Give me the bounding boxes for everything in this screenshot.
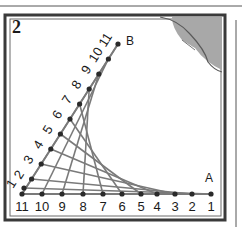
point-a-label: A (205, 171, 213, 185)
nail-points (19, 41, 213, 196)
nail-dot (80, 191, 85, 196)
nail-dot (106, 56, 111, 61)
diagonal-point-label: 10 (85, 45, 105, 65)
nail-dot (67, 116, 72, 121)
bottom-point-label: 10 (35, 199, 49, 214)
nail-dot (96, 71, 101, 76)
diagonal-point-label: 3 (20, 153, 37, 167)
nail-dot (115, 41, 120, 46)
diagonal-point-label: 4 (30, 138, 47, 152)
nail-dot (77, 101, 82, 106)
thread-lines (22, 44, 211, 194)
bottom-point-label: 8 (79, 199, 86, 214)
bottom-point-label: 1 (207, 199, 214, 214)
nail-dot (87, 86, 92, 91)
nail-dot (59, 191, 64, 196)
diagonal-point-label: 5 (39, 123, 56, 137)
diagonal-point-label: 2 (11, 168, 28, 182)
diagonal-point-label: 9 (78, 63, 95, 77)
figure-number: 2 (12, 17, 21, 37)
nail-dot (39, 191, 44, 196)
nail-dot (19, 191, 24, 196)
bottom-point-label: 5 (137, 199, 144, 214)
bottom-point-label: 7 (99, 199, 106, 214)
nail-dot (154, 191, 159, 196)
thread-line (51, 149, 157, 194)
nail-dot (39, 161, 44, 166)
nail-dot (189, 191, 194, 196)
bottom-point-label: 3 (171, 199, 178, 214)
nail-dot (172, 191, 177, 196)
nail-dot (138, 191, 143, 196)
diagonal-point-label: 7 (59, 93, 76, 107)
string-art-diagram: 11109876543211234567891011 2 B A (0, 0, 242, 227)
nail-dot (29, 176, 34, 181)
nail-dot (48, 146, 53, 151)
diagonal-point-label: 6 (49, 108, 66, 122)
bottom-point-label: 2 (188, 199, 195, 214)
diagonal-point-label: 11 (95, 30, 115, 49)
point-b-label: B (126, 34, 134, 48)
bottom-point-label: 9 (58, 199, 65, 214)
bottom-point-label: 6 (118, 199, 125, 214)
nail-dot (119, 191, 124, 196)
diagonal-point-label: 8 (68, 78, 85, 92)
bottom-point-label: 4 (153, 199, 160, 214)
nail-dot (58, 131, 63, 136)
bottom-point-label: 11 (15, 199, 29, 214)
nail-dot (208, 191, 213, 196)
nail-dot (100, 191, 105, 196)
nail-dot (21, 185, 26, 190)
